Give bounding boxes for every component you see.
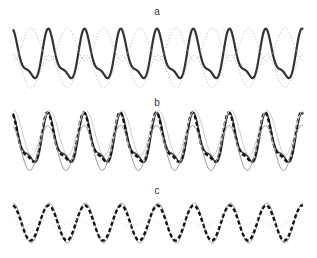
panel-a [13, 28, 303, 88]
series-reference-upper [13, 126, 303, 171]
signal-plots [0, 0, 317, 258]
series-composite-signal [13, 29, 303, 79]
panel-b [13, 111, 303, 171]
panel-c [13, 203, 303, 243]
